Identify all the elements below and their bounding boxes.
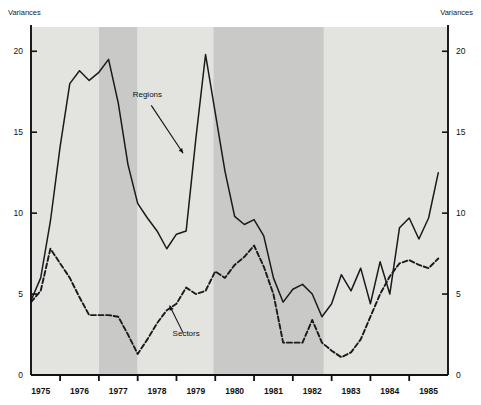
y-tick-label-right-15: 15	[456, 127, 466, 137]
x-tick-label-1983: 1983	[342, 386, 361, 396]
y-tick-label-left-20: 20	[14, 46, 24, 56]
shade-band-1	[99, 27, 138, 375]
right-axis-title: Variances	[440, 8, 473, 17]
left-axis-title: Variances	[8, 8, 41, 17]
recession-shading-bands	[31, 27, 448, 375]
y-tick-label-left-15: 15	[14, 127, 24, 137]
x-tick-label-1984: 1984	[380, 386, 399, 396]
x-tick-label-1985: 1985	[419, 386, 438, 396]
x-tick-label-1976: 1976	[70, 386, 89, 396]
x-tick-label-1982: 1982	[303, 386, 322, 396]
y-tick-label-right-10: 10	[456, 208, 466, 218]
y-tick-label-right-5: 5	[456, 289, 461, 299]
y-tick-label-right-20: 20	[456, 46, 466, 56]
x-tick-label-1975: 1975	[31, 386, 50, 396]
y-tick-label-left-0: 0	[18, 370, 23, 380]
annotation-label-regions: Regions	[133, 90, 162, 99]
y-tick-label-left-10: 10	[14, 208, 24, 218]
variances-line-chart: 0055101015152020197519761977197819791980…	[0, 0, 481, 405]
x-tick-label-1978: 1978	[148, 386, 167, 396]
y-tick-label-left-5: 5	[18, 289, 23, 299]
x-tick-label-1980: 1980	[225, 386, 244, 396]
shade-band-4	[324, 27, 448, 375]
annotation-label-sectors: Sectors	[173, 329, 200, 338]
x-tick-label-1977: 1977	[109, 386, 128, 396]
x-tick-label-1981: 1981	[264, 386, 283, 396]
x-tick-label-1979: 1979	[186, 386, 205, 396]
chart-figure: 0055101015152020197519761977197819791980…	[0, 0, 481, 405]
y-tick-label-right-0: 0	[456, 370, 461, 380]
shade-band-3	[213, 27, 324, 375]
